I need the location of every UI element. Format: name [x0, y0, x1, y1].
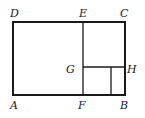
rectangle-abcd — [13, 22, 125, 95]
label-c: C — [120, 7, 129, 20]
label-d: D — [9, 7, 19, 20]
geometry-diagram: D E C G H A F B — [0, 0, 145, 118]
label-a: A — [9, 99, 18, 112]
label-e: E — [78, 7, 87, 20]
label-b: B — [119, 99, 128, 112]
label-h: H — [126, 63, 137, 76]
label-g: G — [66, 63, 75, 76]
label-f: F — [77, 99, 86, 112]
